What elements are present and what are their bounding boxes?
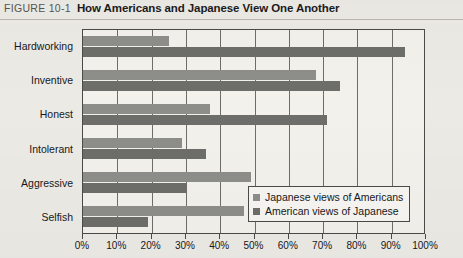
x-axis: 0%10%20%30%40%50%60%70%80%90%100% <box>82 234 425 258</box>
y-axis-label: Aggressive <box>21 166 73 200</box>
x-axis-label: 10% <box>106 240 126 251</box>
bar <box>83 217 148 227</box>
figure-caption: FIGURE 10-1 How Americans and Japanese V… <box>4 2 339 18</box>
x-axis-tick <box>288 234 289 239</box>
bar <box>83 70 316 80</box>
bar <box>83 81 340 91</box>
bar <box>83 172 251 182</box>
x-axis-tick <box>254 234 255 239</box>
x-axis-label: 90% <box>381 240 401 251</box>
caption-divider <box>0 19 463 20</box>
legend-label: Japanese views of Americans <box>265 191 403 203</box>
legend-color-swatch <box>253 194 260 201</box>
figure-number: FIGURE 10-1 <box>4 2 71 14</box>
x-axis-label: 0% <box>75 240 89 251</box>
legend-item: American views of Japanese <box>253 204 403 218</box>
y-axis-label: Inventive <box>31 63 73 97</box>
figure-title: How Americans and Japanese View One Anot… <box>77 2 339 14</box>
legend-label: American views of Japanese <box>265 205 399 217</box>
legend-item: Japanese views of Americans <box>253 190 403 204</box>
bar <box>83 149 206 159</box>
y-axis-label: Honest <box>40 97 73 131</box>
x-axis-tick <box>356 234 357 239</box>
bar-group <box>83 30 424 64</box>
bar-chart: HardworkingInventiveHonestIntolerantAggr… <box>0 21 463 258</box>
x-axis-label: 40% <box>209 240 229 251</box>
chart-legend: Japanese views of AmericansAmerican view… <box>248 186 410 222</box>
x-axis-tick <box>82 234 83 239</box>
y-axis-label: Hardworking <box>14 29 73 63</box>
x-axis-tick <box>425 234 426 239</box>
x-axis-tick <box>391 234 392 239</box>
x-axis-label: 80% <box>346 240 366 251</box>
x-axis-tick <box>185 234 186 239</box>
x-axis-label: 70% <box>312 240 332 251</box>
x-axis-tick <box>322 234 323 239</box>
y-axis-label: Selfish <box>41 200 73 234</box>
x-axis-label: 20% <box>141 240 161 251</box>
legend-color-swatch <box>253 208 260 215</box>
bar <box>83 138 182 148</box>
bar <box>83 36 169 46</box>
x-axis-tick <box>219 234 220 239</box>
x-axis-label: 30% <box>175 240 195 251</box>
bar <box>83 104 210 114</box>
bar <box>83 115 327 125</box>
y-axis-category-labels: HardworkingInventiveHonestIntolerantAggr… <box>0 29 78 234</box>
bar <box>83 47 405 57</box>
bar-group <box>83 64 424 98</box>
x-axis-label: 100% <box>412 240 438 251</box>
bar <box>83 183 186 193</box>
y-axis-label: Intolerant <box>29 132 73 166</box>
x-axis-label: 50% <box>243 240 263 251</box>
bar-group <box>83 98 424 132</box>
x-axis-tick <box>116 234 117 239</box>
bar-group <box>83 133 424 167</box>
x-axis-label: 60% <box>278 240 298 251</box>
bar <box>83 206 244 216</box>
x-axis-tick <box>151 234 152 239</box>
